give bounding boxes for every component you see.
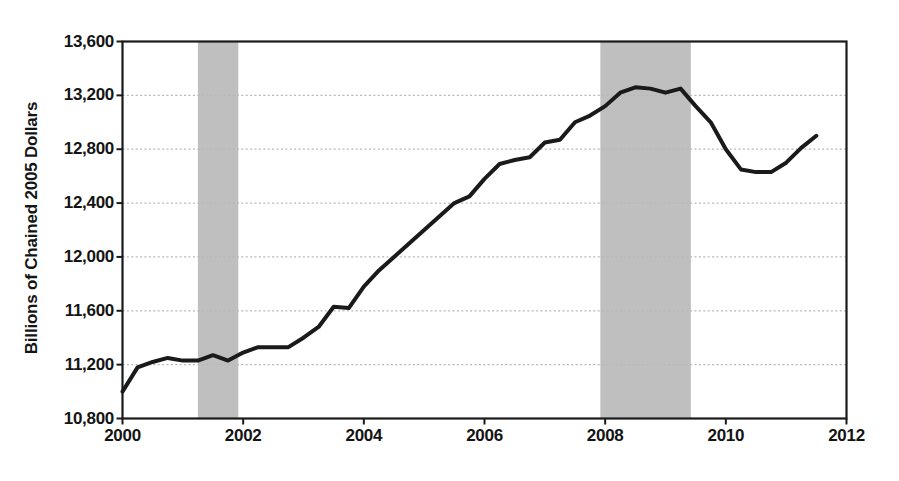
chart-figure: Billions of Chained 2005 Dollars 10,8001… (0, 0, 899, 481)
recession-band-1 (198, 42, 238, 419)
plot-area (0, 0, 899, 481)
figure-caption (126, 466, 776, 481)
